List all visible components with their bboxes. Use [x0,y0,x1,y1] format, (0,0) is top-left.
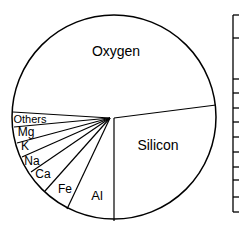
label-k: K [21,139,29,153]
side-table [233,15,239,212]
label-fe: Fe [58,182,72,196]
label-ca: Ca [35,167,51,181]
pie-chart: Oxygen Silicon Al Fe Ca Na K Mg Others [0,0,239,235]
label-na: Na [24,154,40,168]
label-al: Al [91,188,103,203]
label-oxygen: Oxygen [92,43,140,59]
label-mg: Mg [18,125,35,139]
label-silicon: Silicon [137,137,178,153]
label-others: Others [13,113,47,125]
